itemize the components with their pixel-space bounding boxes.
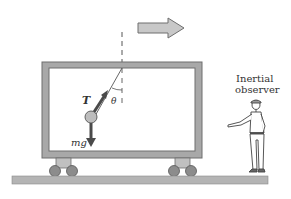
inertial-observer-figure [228,100,265,172]
left-wheel-assembly [50,158,78,177]
weight-label: mg [71,137,87,148]
observer-label-line1: Inertial [236,73,273,84]
ground [12,176,268,184]
accelerating-car-diagram: T θ mg Inertial observer [0,0,291,199]
tension-label: T [82,94,91,107]
pendulum-bob [85,111,97,123]
acceleration-arrow [138,18,184,38]
observer-label-line2: observer [235,84,280,95]
car-body [42,62,202,158]
angle-label: θ [111,96,117,106]
right-wheel-assembly [169,158,197,177]
